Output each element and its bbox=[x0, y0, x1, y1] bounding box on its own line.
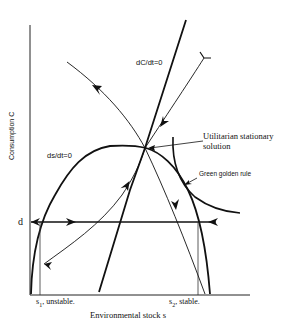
arrow-left-on-d bbox=[208, 218, 218, 226]
x-axis-label: Environmental stock s bbox=[90, 311, 166, 320]
green-golden-leader-arrow bbox=[184, 180, 192, 185]
y-axis-label: Consumption C bbox=[8, 112, 15, 160]
s2-suffix: , stable. bbox=[175, 297, 200, 306]
s1-label: s1, unstable. bbox=[36, 298, 75, 308]
trajectory-lower-left bbox=[44, 148, 145, 264]
ds-dt-zero-label: ds/dt=0 bbox=[47, 152, 72, 160]
arrow-upper-right-tail bbox=[200, 52, 211, 58]
dC-dt-zero-label: dC/dt=0 bbox=[136, 59, 162, 67]
utilitarian-leader-line bbox=[150, 141, 203, 148]
d-label: d bbox=[18, 217, 23, 227]
s1-suffix: , unstable. bbox=[42, 297, 75, 306]
diagram-canvas bbox=[0, 0, 293, 330]
arrow-lower-right-mid bbox=[171, 199, 179, 210]
utilitarian-label: Utilitarian stationary solution bbox=[203, 132, 293, 152]
green-golden-rule-label: Green golden rule bbox=[199, 171, 251, 178]
trajectory-upper-right bbox=[145, 58, 204, 148]
s2-label: s2, stable. bbox=[169, 298, 200, 308]
trajectory-upper-left bbox=[67, 62, 145, 148]
